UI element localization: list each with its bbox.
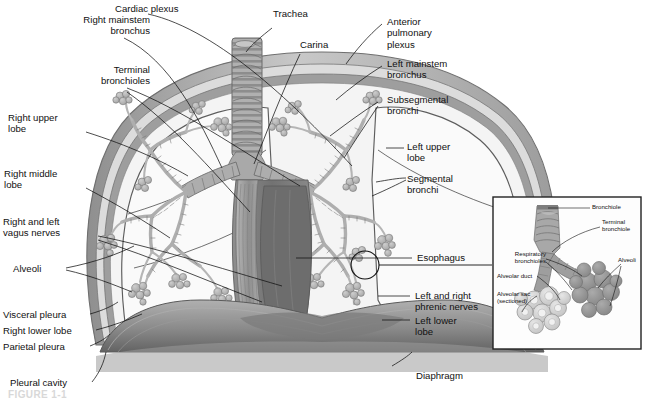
inset-label-alveolar-sac-sectioned: Alveolar sac (sectioned) [497,290,545,304]
figure-caption: FIGURE 1-1 [8,389,67,399]
label-right-and-left-vagus-nerves: Right and left vagus nerves [3,216,101,239]
label-alveoli: Alveoli [13,263,73,274]
trachea-group [228,38,267,180]
label-diaphragm: Diaphragm [416,370,494,381]
label-right-upper-lobe: Right upper lobe [8,112,94,135]
label-subsegmental-bronchi: Subsegmental bronchi [387,94,483,117]
label-left-upper-lobe: Left upper lobe [407,141,487,164]
label-pleural-cavity: Pleural cavity [10,377,94,388]
anatomy-illustration [0,0,645,399]
label-left-lower-lobe: Left lower lobe [415,315,485,338]
label-carina: Carina [300,39,352,50]
label-right-middle-lobe: Right middle lobe [4,168,94,191]
label-segmental-bronchi: Segmental bronchi [407,173,493,196]
mediastinum-group [232,180,311,322]
inset-label-alveolar-duct: Alveolar duct [497,272,545,279]
figure-canvas: Right mainstem bronchus Terminal bronchi… [0,0,645,399]
label-anterior-pulmonary-plexus: Anterior pulmonary plexus [387,16,475,50]
label-right-lower-lobe: Right lower lobe [3,325,99,336]
label-right-mainstem-bronchus: Right mainstem bronchus [38,14,150,37]
inset-label-bronchiole: Bronchiole [592,203,642,210]
inset-label-alveoli: Alveoli [618,256,645,263]
heart-shadow [261,186,312,320]
label-visceral-pleura: Visceral pleura [3,309,91,320]
label-terminal-bronchioles: Terminal bronchioles [58,64,150,87]
inset-label-respiratory-bronchioles: Respiratory bronchioles [496,250,546,264]
label-cardiac-plexus: Cardiac plexus [115,3,211,14]
label-parietal-pleura: Parietal pleura [3,341,91,352]
label-trachea: Trachea [273,8,339,19]
inset-label-terminal-bronchiole: Terminal bronchiole [602,218,642,232]
label-esophagus: Esophagus [417,252,495,263]
label-left-mainstem-bronchus: Left mainstem bronchus [387,58,479,81]
